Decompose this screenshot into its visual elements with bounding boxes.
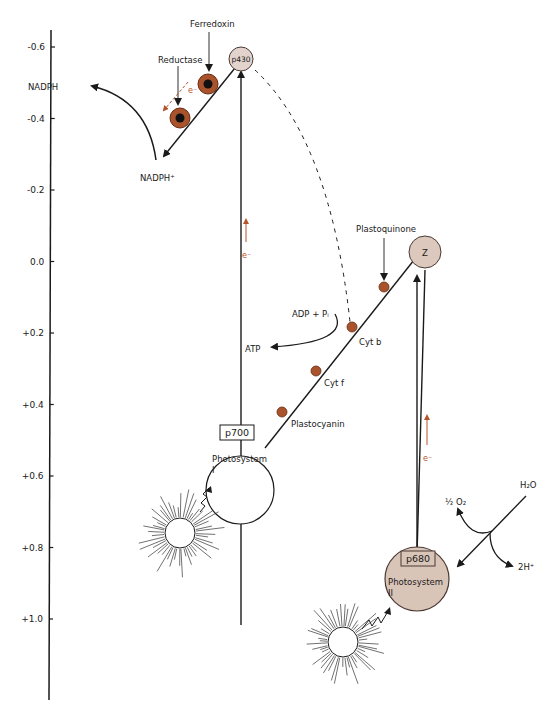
nadph-formation-arrow — [92, 86, 156, 160]
sun-core — [165, 518, 195, 548]
axis-tick-label: +1.0 — [21, 614, 43, 624]
electron-arrow-psii: e⁻ — [423, 416, 432, 463]
z-scheme-diagram: -0.6-0.4-0.20.0+0.2+0.4+0.6+0.8+1.0 e⁻ F… — [0, 0, 560, 707]
psii-excitation-line — [417, 270, 425, 555]
light-ray — [345, 609, 348, 626]
light-ray — [178, 507, 179, 517]
water-label: H₂O — [520, 480, 537, 490]
light-ray — [148, 531, 164, 532]
light-ray — [157, 547, 172, 572]
light-ray — [181, 549, 183, 577]
light-ray — [139, 537, 165, 543]
light-ray — [185, 548, 191, 565]
plastocyanin-label: Plastocyanin — [291, 419, 345, 429]
z-node: Z — [409, 236, 441, 268]
nadp-label: NADPH⁺ — [140, 173, 175, 183]
cyt-f-label: Cyt f — [324, 378, 345, 388]
light-ray — [185, 493, 194, 517]
light-ray — [345, 658, 347, 676]
cyt-b-carrier — [347, 322, 357, 332]
axis-tick-label: +0.6 — [22, 471, 44, 481]
axis-tick-label: -0.2 — [27, 185, 45, 195]
potential-axis: -0.6-0.4-0.20.0+0.2+0.4+0.6+0.8+1.0 — [21, 30, 55, 700]
light-ray — [357, 650, 369, 657]
electron-arrow-ferredoxin: e⁻ — [164, 82, 197, 110]
reductase-carrier — [170, 108, 190, 128]
psii-label-line2: II — [388, 588, 393, 598]
light-ray — [352, 620, 358, 628]
sun-core — [328, 627, 358, 657]
axis-tick-label: +0.2 — [22, 328, 44, 338]
light-ray — [318, 638, 327, 639]
photon-psii-head — [384, 607, 391, 615]
adp-label: ADP + Pᵢ — [292, 309, 329, 319]
cyclic-electron-path — [255, 70, 350, 322]
oxygen-label: ½ O₂ — [445, 497, 466, 507]
electron-label-psi: e⁻ — [242, 251, 251, 260]
cyt-b-label: Cyt b — [359, 337, 381, 347]
light-ray — [162, 545, 170, 554]
electron-label-fd: e⁻ — [188, 86, 197, 95]
atp-label: ATP — [245, 344, 260, 354]
light-ray — [337, 609, 340, 626]
axis-line — [49, 30, 51, 700]
light-ray — [341, 604, 342, 626]
water-splitting: H₂O ½ O₂ 2H⁺ — [445, 480, 537, 572]
psi-label-line2: I — [212, 465, 215, 475]
cyt-f-carrier — [311, 366, 321, 376]
z-label: Z — [422, 248, 428, 258]
axis-tick-label: -0.4 — [27, 114, 45, 124]
photosystem-2: p680 Photosystem II — [385, 547, 449, 611]
reductase-label: Reductase — [158, 55, 202, 65]
ferredoxin-carrier — [198, 74, 218, 94]
axis-tick-label: -0.6 — [27, 42, 45, 52]
light-ray — [169, 502, 175, 518]
light-ray — [184, 549, 186, 557]
light-ray — [358, 648, 365, 651]
axis-tick-label: +0.4 — [22, 400, 44, 410]
light-ray — [322, 649, 328, 652]
psi-label-line1: Photosystem — [212, 454, 267, 464]
light-ray — [359, 639, 367, 640]
light-ray — [196, 535, 208, 537]
light-ray — [312, 646, 327, 650]
electron-label-psii: e⁻ — [423, 454, 432, 463]
p700-label: p700 — [225, 427, 249, 438]
light-ray — [140, 539, 165, 549]
plastoquinone-carrier — [379, 282, 389, 292]
photosystem-1: p700 Photosystem I — [206, 425, 274, 524]
light-ray — [344, 604, 345, 626]
psii-label-line1: Photosystem — [388, 577, 443, 587]
light-ray — [183, 490, 189, 518]
p680-label: p680 — [406, 553, 430, 564]
plastoquinone-label: Plastoquinone — [356, 224, 416, 234]
proton-release-arrow — [490, 533, 512, 566]
light-ray — [307, 643, 327, 644]
light-ray — [157, 523, 165, 527]
p430-label: p430 — [231, 55, 250, 64]
oxygen-release-arrow — [458, 509, 492, 533]
light-source-psii — [307, 603, 384, 684]
nadph-label: NADPH — [28, 82, 58, 92]
light-ray — [313, 652, 331, 665]
p430-node: p430 — [229, 47, 253, 71]
light-ray — [152, 534, 164, 535]
plastocyanin-carrier — [277, 407, 287, 417]
light-ray — [196, 534, 215, 535]
light-ray — [352, 655, 357, 662]
light-ray — [196, 527, 225, 531]
electron-arrow-psi: e⁻ — [242, 220, 251, 260]
light-ray — [355, 653, 375, 670]
light-ray — [355, 613, 376, 631]
light-ray — [359, 643, 379, 644]
ferredoxin-label: Ferredoxin — [190, 19, 235, 29]
light-ray — [320, 608, 334, 628]
light-ray — [180, 493, 181, 517]
axis-tick-label: +0.8 — [21, 543, 43, 553]
light-ray — [358, 646, 384, 653]
proton-label: 2H⁺ — [518, 562, 534, 572]
light-ray — [194, 512, 219, 525]
axis-tick-label: 0.0 — [30, 257, 45, 267]
